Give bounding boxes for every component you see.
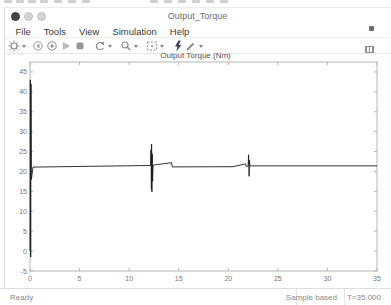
panel-grid-icon[interactable] — [365, 46, 374, 53]
y-tick-label: 30 — [19, 128, 27, 135]
x-tick-label: 5 — [78, 275, 82, 282]
chevron-down-icon — [160, 45, 164, 48]
menubar: File Tools View Simulation Help — [5, 25, 390, 38]
menu-help[interactable]: Help — [163, 26, 196, 37]
titlebar: Output_Torque — [5, 8, 390, 24]
chevron-down-icon — [22, 45, 26, 48]
x-tick-label: 15 — [175, 275, 183, 282]
x-tick-label: 25 — [274, 275, 282, 282]
y-tick-label: 35 — [19, 108, 27, 115]
status-ready: Ready — [10, 293, 33, 302]
y-tick-label: 15 — [19, 188, 27, 195]
x-tick-label: 35 — [373, 275, 381, 282]
chevron-down-icon — [199, 45, 203, 48]
torque-chart-canvas[interactable]: 05101520253035-5051015202530354045 — [0, 55, 391, 287]
clipped-top-strip — [0, 0, 391, 5]
window-title: Output_Torque — [5, 11, 390, 21]
y-tick-label: 20 — [19, 168, 27, 175]
y-tick-label: 0 — [23, 248, 27, 255]
x-tick-label: 20 — [224, 275, 232, 282]
scope-window: Output_Torque File Tools View Simulation… — [0, 0, 391, 305]
menu-simulation[interactable]: Simulation — [106, 26, 163, 37]
menu-tools[interactable]: Tools — [37, 26, 72, 37]
menu-view[interactable]: View — [73, 26, 106, 37]
status-sample-mode: Sample based — [286, 293, 337, 302]
chevron-down-icon — [134, 45, 138, 48]
y-tick-label: 10 — [19, 208, 27, 215]
chevron-down-icon — [108, 45, 112, 48]
y-tick-label: 25 — [19, 148, 27, 155]
statusbar-divider — [344, 289, 345, 305]
menubar-overflow-icon[interactable] — [369, 26, 374, 31]
x-tick-label: 0 — [28, 275, 32, 282]
statusbar: Ready Sample based T=35.000 — [0, 288, 391, 305]
y-tick-label: 45 — [19, 68, 27, 75]
x-tick-label: 30 — [324, 275, 332, 282]
menu-file[interactable]: File — [9, 26, 37, 37]
y-tick-label: 40 — [19, 88, 27, 95]
x-tick-label: 10 — [125, 275, 133, 282]
y-tick-label: -5 — [21, 268, 27, 275]
y-tick-label: 5 — [23, 228, 27, 235]
status-sim-time: T=35.000 — [347, 293, 381, 302]
